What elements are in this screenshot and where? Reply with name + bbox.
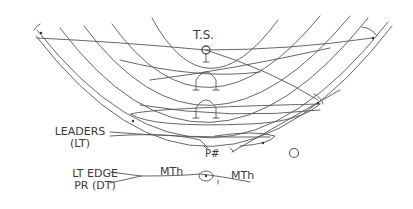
p-sharp-label: P#	[205, 148, 219, 160]
o-circle	[290, 149, 299, 158]
mth-left-label: MTh	[160, 166, 183, 178]
fiber-ts-to-top-right	[206, 38, 372, 50]
cell-lower-right	[262, 142, 264, 144]
fiber-top-left-to-ts	[37, 38, 206, 50]
cell-top-left-bracket	[34, 24, 40, 30]
cell-right	[317, 102, 319, 104]
fiber-upper-cross-left	[120, 60, 260, 74]
fiber-to-pshap-right	[232, 90, 340, 152]
arc-2	[112, 16, 320, 88]
ts-node	[202, 46, 210, 62]
mth-node-dot	[205, 175, 207, 177]
cell-top-right	[372, 37, 374, 39]
edge-label: LT EDGE PR (DT)	[60, 168, 130, 192]
mth-right-label: MTh	[231, 170, 254, 182]
arch-lower	[196, 100, 216, 118]
fibers	[37, 38, 372, 183]
cell-top-left	[40, 32, 42, 34]
leaders-label: LEADERS (LT)	[40, 126, 120, 150]
mth-node	[199, 171, 218, 184]
cell-top-right-bracket	[362, 27, 377, 36]
arc-1	[152, 18, 278, 69]
ts-label: T.S.	[193, 29, 214, 41]
fiber-ts-to-right	[206, 50, 318, 100]
p-arrow-right	[230, 148, 234, 152]
cell-left	[132, 120, 134, 122]
arches	[193, 72, 219, 118]
edge-label-line2: PR (DT)	[60, 180, 130, 192]
leaders-label-line2: (LT)	[40, 138, 120, 150]
